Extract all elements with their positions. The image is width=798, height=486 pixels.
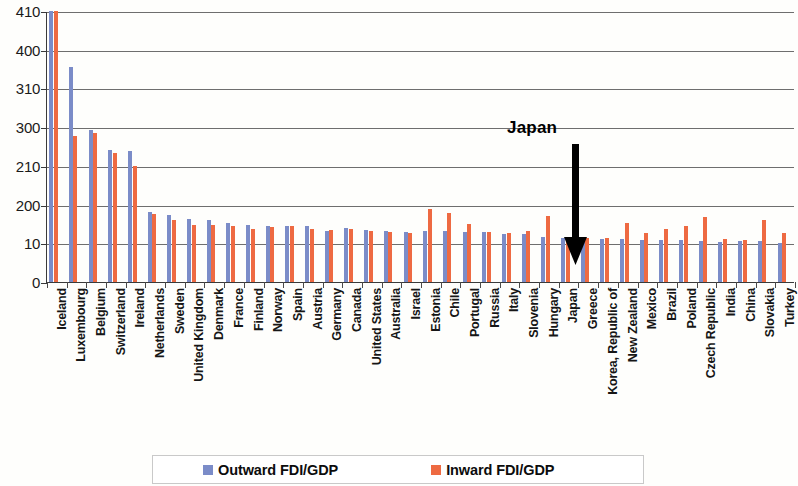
x-axis-label: Belgium — [94, 288, 108, 336]
bar-group — [89, 11, 109, 282]
bar-outward — [738, 241, 742, 282]
bar-group — [699, 11, 719, 282]
bar-inward — [507, 233, 511, 282]
bar-inward — [644, 233, 648, 282]
bar-inward — [73, 136, 77, 282]
bar-outward — [364, 230, 368, 282]
bar-inward — [211, 225, 215, 282]
bar-group — [404, 11, 424, 282]
x-axis-label: Germany — [330, 288, 344, 341]
x-axis-label: New Zealand — [626, 288, 640, 362]
bar-outward — [89, 130, 93, 282]
bar-inward — [290, 226, 294, 282]
bar-group — [167, 11, 187, 282]
bar-inward — [526, 231, 530, 282]
x-axis-label: Australia — [389, 288, 403, 340]
bar-outward — [325, 231, 329, 282]
bar-outward — [167, 215, 171, 282]
bar-inward — [192, 225, 196, 282]
legend-label-outward: Outward FDI/GDP — [218, 462, 338, 478]
bar-group — [187, 11, 207, 282]
bar-outward — [443, 231, 447, 282]
bar-inward — [447, 213, 451, 282]
x-axis-label: Ireland — [133, 288, 147, 328]
x-axis-label: Sweden — [173, 288, 187, 334]
bar-group — [778, 11, 798, 282]
x-axis-label: Mexico — [645, 288, 659, 329]
bar-outward — [482, 232, 486, 282]
bar-group — [581, 11, 601, 282]
bar-inward — [723, 239, 727, 282]
bar-outward — [305, 226, 309, 282]
x-axis-label: Israel — [409, 288, 423, 319]
bar-group — [49, 11, 69, 282]
bar-outward — [404, 232, 408, 282]
x-axis-label: Czech Republic — [704, 288, 718, 378]
x-axis-label: Slovenia — [527, 288, 541, 338]
bar-group — [226, 11, 246, 282]
x-axis-label: Netherlands — [153, 288, 167, 358]
bar-inward — [743, 240, 747, 282]
bar-outward — [69, 67, 73, 282]
bar-group — [482, 11, 502, 282]
bar-group — [463, 11, 483, 282]
bar-outward — [384, 231, 388, 282]
bar-outward — [581, 238, 585, 282]
bar-outward — [207, 220, 211, 282]
bar-inward — [369, 231, 373, 282]
legend-entry-inward: Inward FDI/GDP — [431, 462, 554, 478]
bar-inward — [133, 166, 137, 282]
bar-group — [246, 11, 266, 282]
bar-inward — [408, 233, 412, 282]
bar-inward — [487, 232, 491, 282]
bar-inward — [467, 224, 471, 282]
bar-group — [758, 11, 778, 282]
y-axis-labels: 010200210300310400410 — [0, 0, 46, 300]
bar-group — [620, 11, 640, 282]
bar-group — [659, 11, 679, 282]
bar-outward — [148, 212, 152, 282]
bar-inward — [684, 226, 688, 282]
bar-inward — [152, 214, 156, 282]
bar-outward — [679, 240, 683, 282]
bar-outward — [49, 11, 53, 282]
bar-group — [266, 11, 286, 282]
bar-group — [384, 11, 404, 282]
legend-label-inward: Inward FDI/GDP — [446, 462, 554, 478]
bar-outward — [128, 151, 132, 282]
y-axis-tick-label: 310 — [0, 80, 40, 97]
legend-swatch-outward-icon — [203, 465, 213, 475]
bar-inward — [329, 230, 333, 282]
bar-inward — [310, 229, 314, 282]
bar-outward — [344, 228, 348, 282]
plot-area — [46, 12, 794, 283]
bar-group — [128, 11, 148, 282]
x-axis-label: Korea, Republic of — [606, 288, 620, 395]
x-axis-label: Greece — [586, 288, 600, 329]
bar-inward — [349, 229, 353, 282]
bar-inward — [605, 238, 609, 282]
x-axis-label: India — [724, 288, 738, 316]
bar-group — [325, 11, 345, 282]
bar-outward — [502, 234, 506, 282]
x-axis-label: Estonia — [429, 288, 443, 332]
x-axis-label: Hungary — [547, 288, 561, 337]
x-axis-label: Austria — [311, 288, 325, 330]
bar-outward — [246, 225, 250, 282]
x-axis-label: Brazil — [665, 288, 679, 321]
x-axis-label: Iceland — [55, 288, 69, 330]
bar-group — [640, 11, 660, 282]
bar-outward — [541, 237, 545, 282]
bar-group — [148, 11, 168, 282]
x-axis-label: Denmark — [212, 288, 226, 340]
bar-outward — [718, 242, 722, 282]
bar-inward — [93, 133, 97, 282]
bar-outward — [758, 241, 762, 282]
bar-inward — [585, 238, 589, 282]
bar-group — [108, 11, 128, 282]
chart-legend: Outward FDI/GDP Inward FDI/GDP — [152, 455, 644, 484]
x-axis-label: Canada — [350, 288, 364, 332]
bar-outward — [600, 239, 604, 282]
x-axis-labels: IcelandLuxembourgBelgiumSwitzerlandIrela… — [46, 288, 794, 418]
bar-inward — [231, 226, 235, 282]
